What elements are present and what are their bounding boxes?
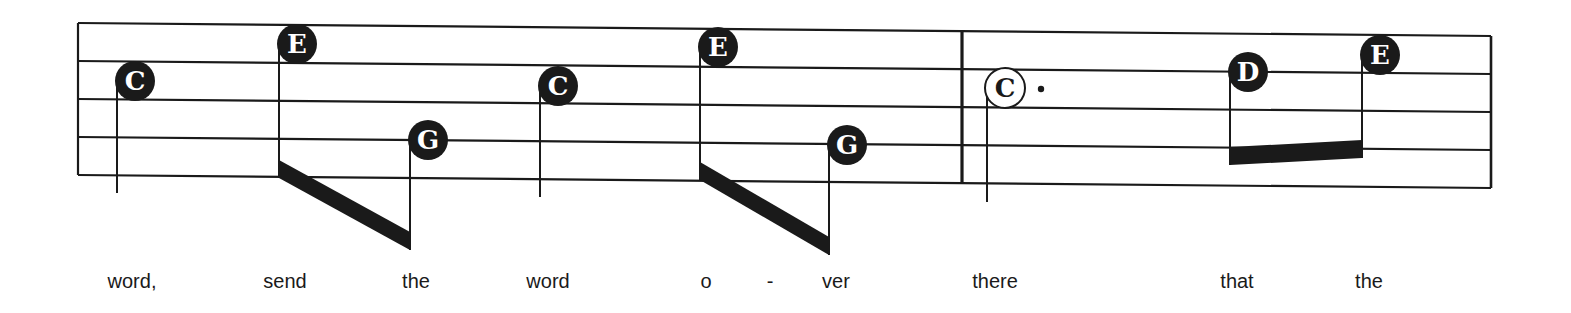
note-letter-label: D	[1237, 57, 1260, 87]
note-e-filled-icon: E	[277, 24, 317, 64]
note-letter-label: G	[836, 130, 858, 160]
lyric-syllable: that	[1220, 270, 1253, 293]
beam	[700, 162, 829, 255]
note-letter-label: C	[995, 73, 1016, 103]
note-letter-label: E	[708, 32, 728, 62]
lyric-syllable: there	[972, 270, 1018, 293]
staff-line	[78, 61, 1491, 74]
lyric-syllable: word,	[108, 270, 157, 293]
note-letter-label: E	[287, 29, 307, 59]
note-letter-label: E	[1370, 40, 1390, 70]
note-beams	[279, 140, 1362, 255]
note-letter-label: C	[548, 71, 569, 101]
note-g-filled-icon: G	[408, 120, 448, 160]
augmentation-dot-icon	[1038, 86, 1044, 92]
note-letter-label: C	[125, 66, 146, 96]
note-letter-label: G	[417, 125, 439, 155]
note-c-open-icon: C	[985, 68, 1044, 108]
beam	[279, 160, 410, 250]
beam	[1230, 140, 1362, 165]
lyric-syllable: send	[263, 270, 306, 293]
lyric-syllable: -	[767, 270, 774, 293]
lyric-syllable: o	[700, 270, 711, 293]
lyric-syllable: the	[1355, 270, 1383, 293]
lyric-syllable: ver	[822, 270, 850, 293]
note-d-filled-icon: D	[1228, 52, 1268, 92]
note-g-filled-icon: G	[827, 125, 867, 165]
lyric-syllable: word	[526, 270, 569, 293]
note-e-filled-icon: E	[698, 27, 738, 67]
note-c-filled-icon: C	[538, 66, 578, 106]
staff-line	[78, 99, 1491, 112]
note-stems	[117, 44, 1362, 255]
lyric-syllable: the	[402, 270, 430, 293]
note-e-filled-icon: E	[1360, 35, 1400, 75]
note-c-filled-icon: C	[115, 61, 155, 101]
music-staff: CEGCEGCDE	[0, 0, 1571, 313]
